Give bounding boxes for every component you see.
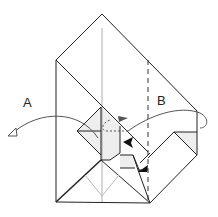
paper-outline <box>56 14 197 203</box>
lower-left-diagonal <box>56 160 101 202</box>
label-b: B <box>157 93 166 108</box>
push-arrow-icon <box>123 137 133 148</box>
arrowhead-right-icon <box>118 116 128 122</box>
arrowhead-open-icon <box>8 128 17 136</box>
origami-diagram <box>0 0 218 217</box>
label-a: A <box>23 95 32 110</box>
fold-arrow-b <box>128 110 207 131</box>
shaded-lower-step <box>120 155 135 168</box>
